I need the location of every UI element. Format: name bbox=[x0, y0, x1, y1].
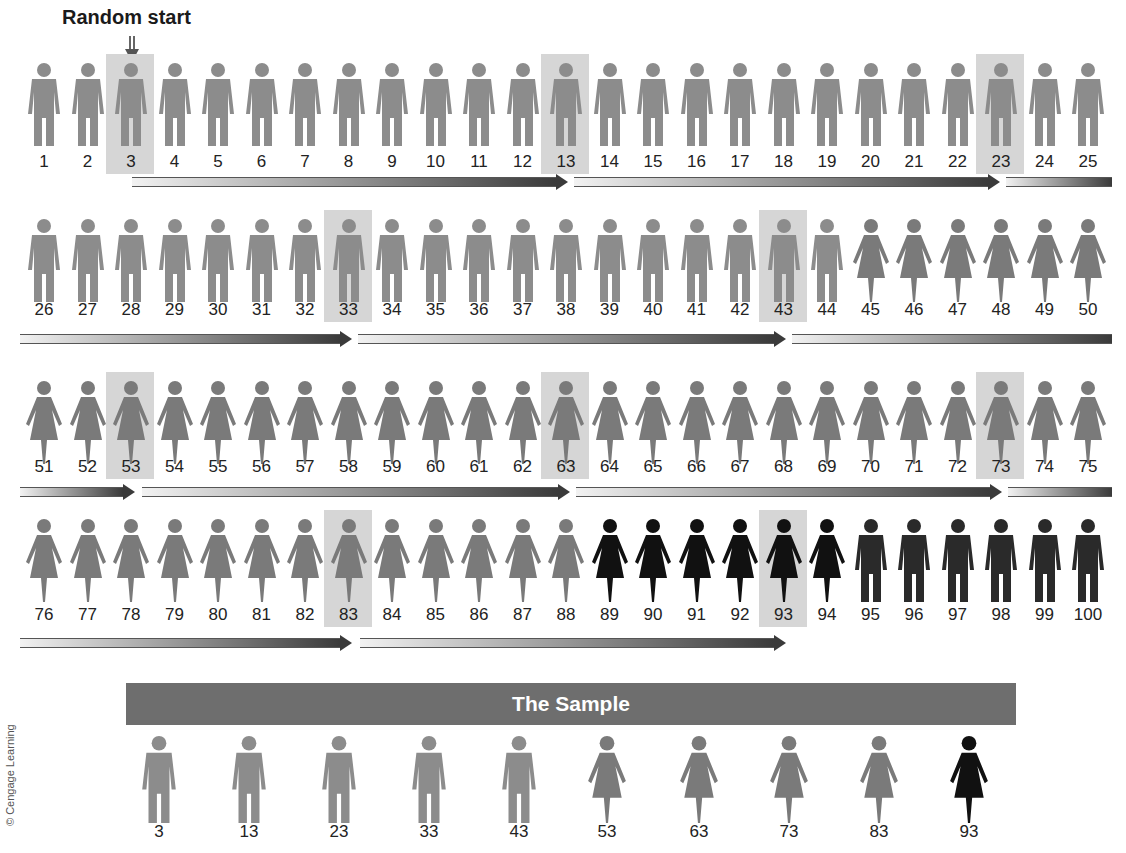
male-person-icon bbox=[138, 734, 180, 826]
person-number: 86 bbox=[457, 605, 501, 625]
female-person-icon bbox=[416, 518, 456, 604]
person-number: 89 bbox=[588, 605, 632, 625]
interval-arrow-icon bbox=[1008, 484, 1112, 500]
person-number: 14 bbox=[588, 152, 632, 172]
male-person-icon bbox=[198, 218, 238, 304]
person-number: 87 bbox=[501, 605, 545, 625]
female-person-icon bbox=[198, 380, 238, 466]
male-person-icon bbox=[68, 218, 108, 304]
female-person-icon bbox=[329, 380, 369, 466]
male-person-icon bbox=[503, 62, 543, 148]
person-number: 60 bbox=[414, 457, 458, 477]
person-number: 52 bbox=[66, 457, 110, 477]
female-person-icon bbox=[807, 380, 847, 466]
person-number: 91 bbox=[675, 605, 719, 625]
person-number: 6 bbox=[240, 152, 284, 172]
male-person-icon bbox=[1068, 62, 1108, 148]
person-number: 98 bbox=[979, 605, 1023, 625]
interval-arrow-icon bbox=[20, 331, 352, 347]
person-number: 93 bbox=[762, 605, 806, 625]
person-number: 80 bbox=[196, 605, 240, 625]
female-person-icon bbox=[24, 380, 64, 466]
person-number: 10 bbox=[414, 152, 458, 172]
female-person-icon bbox=[1068, 380, 1108, 466]
female-person-icon bbox=[372, 380, 412, 466]
female-person-icon bbox=[586, 734, 628, 826]
sample-number: 53 bbox=[582, 822, 632, 842]
female-person-icon bbox=[416, 380, 456, 466]
male-person-icon bbox=[633, 218, 673, 304]
person-number: 76 bbox=[22, 605, 66, 625]
female-person-icon bbox=[503, 380, 543, 466]
male-person-icon bbox=[198, 62, 238, 148]
person-number: 12 bbox=[501, 152, 545, 172]
person-number: 28 bbox=[109, 300, 153, 320]
person-number: 71 bbox=[892, 457, 936, 477]
male-person-icon bbox=[981, 518, 1021, 604]
female-person-icon bbox=[633, 518, 673, 604]
person-number: 4 bbox=[153, 152, 197, 172]
person-number: 90 bbox=[631, 605, 675, 625]
female-person-icon bbox=[155, 518, 195, 604]
female-person-icon bbox=[242, 518, 282, 604]
male-person-icon bbox=[372, 62, 412, 148]
male-person-icon bbox=[1068, 518, 1108, 604]
male-person-icon bbox=[372, 218, 412, 304]
male-person-icon bbox=[590, 62, 630, 148]
male-person-icon bbox=[807, 62, 847, 148]
person-number: 43 bbox=[762, 300, 806, 320]
male-person-icon bbox=[590, 218, 630, 304]
person-number: 79 bbox=[153, 605, 197, 625]
male-person-icon bbox=[764, 62, 804, 148]
male-person-icon bbox=[851, 62, 891, 148]
sample-number: 63 bbox=[674, 822, 724, 842]
male-person-icon bbox=[459, 218, 499, 304]
person-number: 22 bbox=[936, 152, 980, 172]
person-number: 82 bbox=[283, 605, 327, 625]
sample-number: 43 bbox=[494, 822, 544, 842]
female-person-icon bbox=[858, 734, 900, 826]
female-person-icon bbox=[851, 218, 891, 304]
female-person-icon bbox=[242, 380, 282, 466]
person-number: 27 bbox=[66, 300, 110, 320]
female-person-icon bbox=[677, 518, 717, 604]
female-person-icon bbox=[981, 380, 1021, 466]
female-person-icon bbox=[720, 380, 760, 466]
male-person-icon bbox=[720, 62, 760, 148]
person-number: 35 bbox=[414, 300, 458, 320]
male-person-icon bbox=[285, 62, 325, 148]
sample-number: 3 bbox=[134, 822, 184, 842]
female-person-icon bbox=[678, 734, 720, 826]
female-person-icon bbox=[938, 218, 978, 304]
person-number: 25 bbox=[1066, 152, 1110, 172]
sample-number: 73 bbox=[764, 822, 814, 842]
person-number: 45 bbox=[849, 300, 893, 320]
person-number: 85 bbox=[414, 605, 458, 625]
female-person-icon bbox=[590, 380, 630, 466]
person-number: 69 bbox=[805, 457, 849, 477]
person-number: 44 bbox=[805, 300, 849, 320]
female-person-icon bbox=[981, 218, 1021, 304]
male-person-icon bbox=[228, 734, 270, 826]
male-person-icon bbox=[318, 734, 360, 826]
person-number: 7 bbox=[283, 152, 327, 172]
person-number: 41 bbox=[675, 300, 719, 320]
person-number: 95 bbox=[849, 605, 893, 625]
female-person-icon bbox=[764, 380, 804, 466]
interval-arrow-icon bbox=[132, 174, 568, 190]
male-person-icon bbox=[1025, 62, 1065, 148]
female-person-icon bbox=[948, 734, 990, 826]
sample-banner: The Sample bbox=[126, 683, 1016, 725]
person-number: 51 bbox=[22, 457, 66, 477]
person-number: 81 bbox=[240, 605, 284, 625]
person-number: 47 bbox=[936, 300, 980, 320]
female-person-icon bbox=[285, 518, 325, 604]
female-person-icon bbox=[329, 518, 369, 604]
male-person-icon bbox=[416, 218, 456, 304]
female-person-icon bbox=[677, 380, 717, 466]
copyright-text: © Cengage Learning bbox=[4, 706, 16, 826]
interval-arrow-icon bbox=[574, 174, 1000, 190]
interval-arrow-icon bbox=[20, 635, 352, 651]
female-person-icon bbox=[546, 380, 586, 466]
male-person-icon bbox=[68, 62, 108, 148]
